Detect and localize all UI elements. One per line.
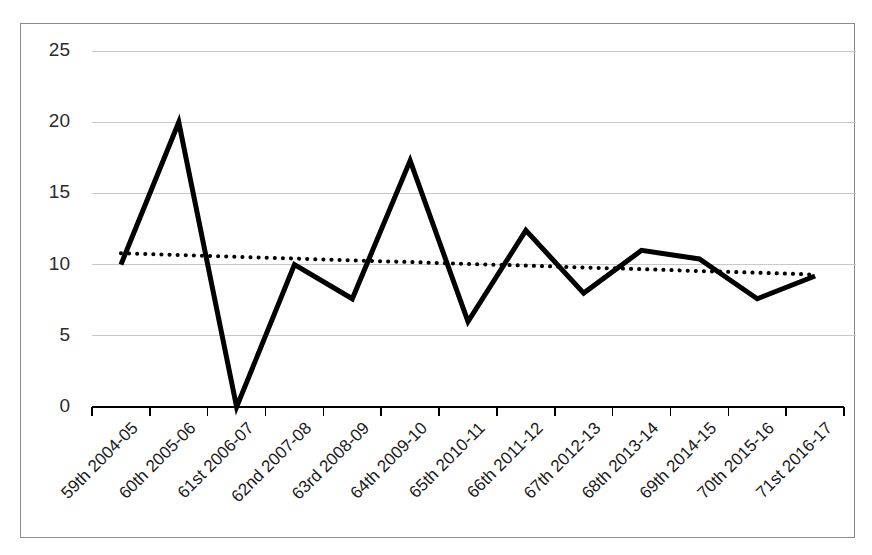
gridlines bbox=[92, 51, 856, 336]
y-axis-tick-label: 20 bbox=[49, 110, 70, 131]
y-axis-tick-label: 15 bbox=[49, 181, 70, 202]
x-axis-tick-marks bbox=[92, 407, 844, 416]
y-axis-tick-labels: 0510152025 bbox=[49, 39, 70, 416]
x-axis-tick-labels: 59th 2004-0560th 2005-0661st 2006-0762nd… bbox=[57, 418, 835, 506]
y-axis-tick-label: 25 bbox=[49, 39, 70, 60]
line-chart: 0510152025 59th 2004-0560th 2005-0661st … bbox=[21, 24, 856, 539]
chart-frame: 0510152025 59th 2004-0560th 2005-0661st … bbox=[20, 23, 855, 538]
y-axis-tick-label: 10 bbox=[49, 253, 70, 274]
y-axis-tick-label: 0 bbox=[59, 395, 70, 416]
y-axis-tick-label: 5 bbox=[59, 324, 70, 345]
